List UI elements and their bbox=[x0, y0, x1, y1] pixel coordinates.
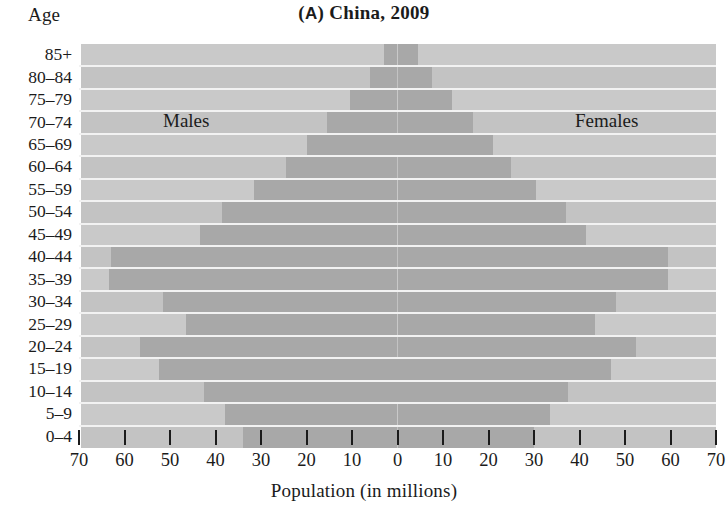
pyramid-row bbox=[79, 179, 716, 201]
row-separator bbox=[79, 65, 716, 67]
panel-paren-open: ( bbox=[298, 2, 305, 23]
bar-male bbox=[370, 66, 397, 88]
x-axis-tick bbox=[306, 430, 308, 445]
x-axis-tick bbox=[260, 430, 262, 445]
x-axis-tick bbox=[351, 430, 353, 445]
x-axis-tick bbox=[78, 430, 80, 445]
pyramid-row bbox=[79, 201, 716, 223]
row-separator bbox=[79, 245, 716, 247]
bar-female bbox=[398, 111, 473, 133]
bar-male bbox=[327, 111, 398, 133]
series-label-females: Females bbox=[575, 110, 638, 132]
bar-female bbox=[398, 403, 550, 425]
bar-male bbox=[140, 336, 397, 358]
bar-female bbox=[398, 268, 669, 290]
x-axis-tick-label: 60 bbox=[661, 450, 680, 471]
x-axis-tick bbox=[624, 430, 626, 445]
bar-male bbox=[384, 44, 398, 66]
pyramid-row bbox=[79, 403, 716, 425]
bar-female bbox=[398, 224, 587, 246]
x-axis-title: Population (in millions) bbox=[0, 480, 728, 502]
bar-female bbox=[398, 89, 453, 111]
y-axis-label: 65–69 bbox=[28, 136, 72, 154]
pyramid-row bbox=[79, 336, 716, 358]
bar-female bbox=[398, 336, 637, 358]
x-axis-tick bbox=[397, 430, 399, 445]
y-axis-label: 55–59 bbox=[28, 181, 72, 199]
chart-title: (A) China, 2009 bbox=[0, 2, 728, 24]
pyramid-row bbox=[79, 268, 716, 290]
x-axis-tick-label: 60 bbox=[115, 450, 134, 471]
row-separator bbox=[79, 200, 716, 202]
x-axis-tick-label: 40 bbox=[206, 450, 225, 471]
pyramid-row bbox=[79, 313, 716, 335]
row-separator bbox=[79, 335, 716, 337]
x-axis-tick-labels: 70605040302010010203040506070 bbox=[79, 450, 716, 476]
x-axis-tick-label: 40 bbox=[570, 450, 589, 471]
pyramid-row bbox=[79, 291, 716, 313]
pyramid-row bbox=[79, 246, 716, 268]
y-axis-label: 40–44 bbox=[28, 248, 72, 266]
y-axis-label: 50–54 bbox=[28, 203, 72, 221]
y-axis-label: 20–24 bbox=[28, 338, 72, 356]
row-separator bbox=[79, 155, 716, 157]
y-axis-label: 5–9 bbox=[46, 405, 72, 423]
x-axis-tick bbox=[169, 430, 171, 445]
pyramid-row bbox=[79, 66, 716, 88]
row-separator bbox=[79, 110, 716, 112]
x-axis-tick bbox=[579, 430, 581, 445]
x-axis-tick bbox=[715, 430, 717, 445]
y-axis-label: 75–79 bbox=[28, 91, 72, 109]
bar-female bbox=[398, 246, 669, 268]
x-axis-tick-label: 70 bbox=[707, 450, 726, 471]
x-axis-tick bbox=[670, 430, 672, 445]
x-axis-tick bbox=[215, 430, 217, 445]
bar-female bbox=[398, 313, 596, 335]
bar-male bbox=[254, 179, 397, 201]
bar-female bbox=[398, 44, 418, 66]
x-axis-tick-label: 10 bbox=[434, 450, 453, 471]
row-separator bbox=[79, 312, 716, 314]
bar-female bbox=[398, 381, 569, 403]
y-axis-label: 80–84 bbox=[28, 69, 72, 87]
row-separator bbox=[79, 88, 716, 90]
row-separator bbox=[79, 133, 716, 135]
bar-female bbox=[398, 66, 432, 88]
x-axis-tick-label: 50 bbox=[616, 450, 635, 471]
y-axis-label: 15–19 bbox=[28, 360, 72, 378]
pyramid-row bbox=[79, 156, 716, 178]
panel-letter: A bbox=[305, 4, 318, 23]
x-axis-tick-label: 10 bbox=[343, 450, 362, 471]
y-axis-label: 30–34 bbox=[28, 293, 72, 311]
row-separator bbox=[79, 380, 716, 382]
bar-male bbox=[109, 268, 398, 290]
x-axis-tick-label: 20 bbox=[297, 450, 316, 471]
row-separator bbox=[79, 290, 716, 292]
y-axis-label: 25–29 bbox=[28, 316, 72, 334]
row-separator bbox=[79, 402, 716, 404]
bar-male bbox=[225, 403, 398, 425]
pyramid-row bbox=[79, 381, 716, 403]
row-separator bbox=[79, 425, 716, 427]
x-axis-tick bbox=[442, 430, 444, 445]
bar-male bbox=[350, 89, 398, 111]
bar-male bbox=[222, 201, 397, 223]
row-separator bbox=[79, 267, 716, 269]
chart-title-text: China, 2009 bbox=[324, 2, 429, 23]
pyramid-row bbox=[79, 134, 716, 156]
pyramid-row bbox=[79, 358, 716, 380]
bar-female bbox=[398, 358, 612, 380]
bar-male bbox=[111, 246, 398, 268]
x-axis-tick bbox=[533, 430, 535, 445]
bar-male bbox=[163, 291, 397, 313]
x-axis-tick-label: 70 bbox=[70, 450, 89, 471]
pyramid-row bbox=[79, 224, 716, 246]
x-axis-tick-label: 30 bbox=[525, 450, 544, 471]
y-axis-label: 60–64 bbox=[28, 158, 72, 176]
population-pyramid-figure: Age (A) China, 2009 85+80–8475–7970–7465… bbox=[0, 0, 728, 524]
bar-male bbox=[186, 313, 398, 335]
bar-female bbox=[398, 156, 512, 178]
plot-area: Males Females bbox=[79, 44, 716, 448]
y-axis-label: 45–49 bbox=[28, 226, 72, 244]
series-label-males: Males bbox=[163, 110, 209, 132]
